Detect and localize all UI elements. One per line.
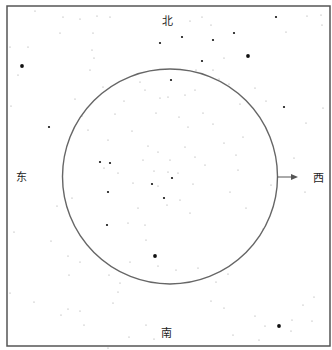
faint-star xyxy=(178,116,179,117)
faint-star xyxy=(218,78,219,79)
faint-star xyxy=(227,273,228,274)
faint-star xyxy=(179,199,180,200)
faint-star xyxy=(102,86,103,87)
faint-star xyxy=(56,205,57,206)
bright-star xyxy=(171,177,173,179)
faint-star xyxy=(83,324,84,325)
faint-star xyxy=(112,302,113,303)
faint-star xyxy=(89,69,90,70)
faint-star xyxy=(9,46,10,47)
faint-star xyxy=(194,89,195,90)
faint-star xyxy=(167,96,168,97)
faint-star xyxy=(117,291,118,292)
bright-star xyxy=(275,16,277,18)
faint-star xyxy=(290,330,291,331)
faint-star xyxy=(74,98,75,99)
faint-star xyxy=(9,292,10,293)
faint-star xyxy=(144,89,145,90)
faint-star xyxy=(50,240,51,241)
faint-star xyxy=(195,69,196,70)
faint-star xyxy=(91,49,92,50)
bright-star xyxy=(163,197,165,199)
bright-star xyxy=(170,79,172,81)
faint-star xyxy=(107,347,108,348)
faint-star xyxy=(67,308,68,309)
faint-star xyxy=(34,10,35,11)
faint-star xyxy=(321,24,322,25)
bright-star-large xyxy=(277,324,281,328)
faint-star xyxy=(167,171,168,172)
north-label: 北 xyxy=(162,15,173,28)
faint-star xyxy=(313,296,314,297)
faint-star xyxy=(60,314,61,315)
faint-star xyxy=(107,139,108,140)
faint-star xyxy=(293,157,294,158)
faint-star xyxy=(270,184,271,185)
faint-star xyxy=(108,274,109,275)
faint-star xyxy=(189,20,190,21)
faint-star xyxy=(254,87,255,88)
faint-star xyxy=(166,204,167,205)
star-chart: 北 南 东 西 xyxy=(0,0,332,350)
faint-star xyxy=(254,315,255,316)
faint-star xyxy=(157,151,158,152)
faint-star xyxy=(128,336,129,337)
faint-star xyxy=(114,113,115,114)
bright-star xyxy=(181,36,183,38)
faint-star xyxy=(137,207,138,208)
faint-star xyxy=(27,46,28,47)
faint-star xyxy=(68,274,69,275)
faint-star xyxy=(235,154,236,155)
faint-star xyxy=(33,301,34,302)
faint-star xyxy=(201,16,202,17)
faint-star xyxy=(242,136,243,137)
faint-star xyxy=(155,112,156,113)
faint-star xyxy=(239,103,240,104)
faint-star xyxy=(291,319,292,320)
faint-star xyxy=(285,31,286,32)
faint-star xyxy=(229,191,230,192)
faint-star xyxy=(228,83,229,84)
faint-star xyxy=(184,146,185,147)
chart-frame xyxy=(7,6,330,346)
faint-star xyxy=(157,265,158,266)
faint-star xyxy=(79,18,80,19)
bright-star xyxy=(99,161,101,163)
faint-star xyxy=(145,324,146,325)
faint-star xyxy=(153,170,154,171)
faint-star xyxy=(145,239,146,240)
faint-star xyxy=(187,126,188,127)
faint-star xyxy=(142,159,143,160)
faint-star xyxy=(132,182,133,183)
faint-star xyxy=(258,339,259,340)
faint-star xyxy=(245,207,246,208)
bright-star xyxy=(109,162,111,164)
faint-star xyxy=(139,81,140,82)
faint-star xyxy=(79,261,80,262)
faint-star xyxy=(197,267,198,268)
west-label: 西 xyxy=(313,172,324,185)
faint-star xyxy=(144,224,145,225)
faint-star xyxy=(87,129,88,130)
bright-star xyxy=(151,183,153,185)
faint-star xyxy=(92,32,93,33)
faint-star xyxy=(210,300,211,301)
faint-star xyxy=(103,167,104,168)
faint-star xyxy=(232,334,233,335)
bright-star-large xyxy=(246,54,250,58)
bright-star-large xyxy=(20,64,24,68)
bright-star xyxy=(201,60,203,62)
faint-star xyxy=(147,145,148,146)
bright-star xyxy=(159,42,161,44)
faint-star xyxy=(177,172,178,173)
faint-star xyxy=(194,156,195,157)
faint-star xyxy=(302,304,303,305)
bright-star xyxy=(106,224,108,226)
faint-star xyxy=(311,320,312,321)
faint-star xyxy=(127,222,128,223)
bright-star-large xyxy=(153,254,157,258)
bright-star xyxy=(107,191,109,193)
faint-star xyxy=(237,169,238,170)
faint-star xyxy=(305,122,306,123)
faint-star xyxy=(117,172,118,173)
